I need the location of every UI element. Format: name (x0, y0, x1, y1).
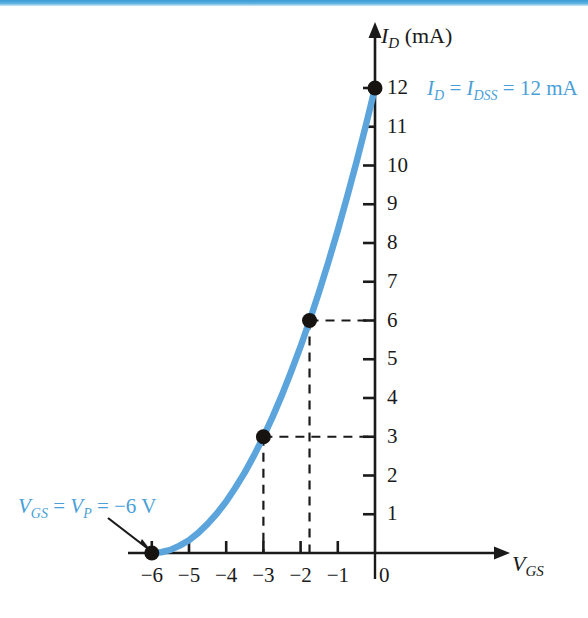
idss-sym1: I (427, 76, 434, 100)
y-tick-label: 4 (387, 387, 398, 408)
x-tick-label: −5 (173, 565, 205, 586)
dashed-guide-lines (263, 321, 375, 554)
data-point-marker (256, 429, 271, 444)
y-tick-label: 12 (387, 77, 408, 98)
x-tick-label: −4 (210, 565, 242, 586)
x-tick-label: −6 (136, 565, 168, 586)
y-tick-label: 6 (387, 310, 398, 331)
data-point-marker (302, 313, 317, 328)
y-tick-label: 1 (387, 503, 398, 524)
curve-path (152, 88, 375, 553)
vp-eq1: = (48, 494, 70, 518)
x-tick-label: −2 (285, 565, 317, 586)
x-tick-label: −3 (247, 565, 279, 586)
y-axis-title: ID (mA) (381, 25, 452, 51)
y-tick-label: 9 (387, 193, 398, 214)
vp-sub1: GS (31, 506, 48, 521)
idss-eq1: = (444, 76, 466, 100)
figure-canvas: ID (mA) VGS ID = IDSS = 12 mA VGS = VP =… (0, 0, 588, 618)
vp-eq2: = −6 V (92, 494, 157, 518)
y-axis-title-subscript: D (388, 35, 399, 51)
vp-sym2: V (70, 494, 83, 518)
y-tick-label: 8 (387, 232, 398, 253)
vp-leader-line (108, 518, 152, 552)
x-axis-arrowhead (494, 547, 510, 560)
x-axis-title-subscript: GS (525, 563, 543, 579)
y-tick-label: 5 (387, 348, 398, 369)
idss-eq2: = 12 mA (498, 76, 578, 100)
data-point-marker (368, 81, 383, 96)
shockley-curve (152, 88, 375, 553)
y-tick-label: 7 (387, 271, 398, 292)
x-axis-title: VGS (512, 553, 544, 579)
y-tick-label: 2 (387, 465, 398, 486)
y-tick-label: 11 (387, 116, 407, 137)
y-tick-label: 3 (387, 426, 398, 447)
idss-sub2: DSS (473, 88, 497, 103)
idss-sub1: D (434, 88, 444, 103)
vp-sym1: V (18, 494, 31, 518)
vp-sub2: P (83, 506, 92, 521)
x-axis-title-symbol: V (512, 551, 525, 576)
vp-annotation: VGS = VP = −6 V (18, 496, 156, 521)
x-tick-label: 0 (379, 565, 411, 586)
y-tick-label: 10 (387, 155, 408, 176)
x-tick-label: −1 (322, 565, 354, 586)
y-axis-title-unit: (mA) (405, 23, 453, 48)
idss-annotation: ID = IDSS = 12 mA (427, 78, 578, 103)
y-axis-arrowhead (369, 22, 382, 38)
